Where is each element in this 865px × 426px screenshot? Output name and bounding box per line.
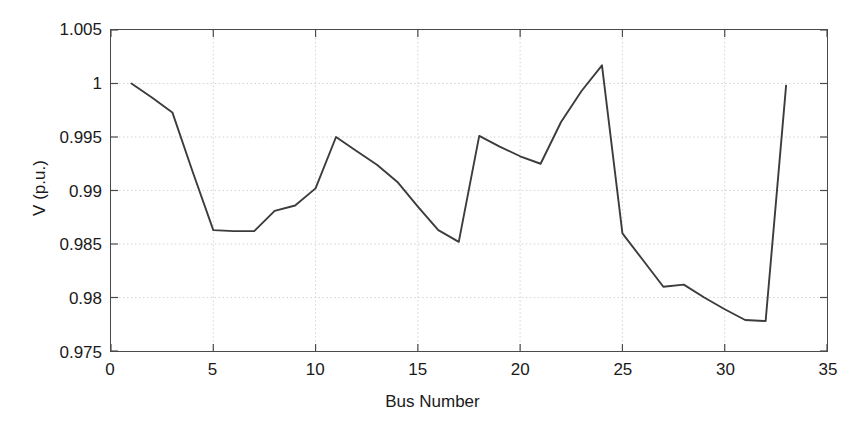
- figure-container: 0.9750.980.9850.990.99511.005 0510152025…: [0, 0, 865, 426]
- x-tick-label: 20: [490, 361, 550, 378]
- x-axis-label: Bus Number: [0, 392, 865, 412]
- plot-svg: [111, 30, 827, 351]
- x-tick-label: 10: [285, 361, 345, 378]
- x-tick-label: 5: [183, 361, 243, 378]
- x-tick-label: 25: [593, 361, 653, 378]
- x-tick-label: 35: [798, 361, 858, 378]
- y-axis-label: V (p.u.): [30, 128, 50, 248]
- data-series-line: [131, 65, 786, 321]
- x-tick-label: 0: [80, 361, 140, 378]
- x-tick-label: 30: [695, 361, 755, 378]
- y-axis-label-wrapper: V (p.u.): [0, 130, 100, 250]
- plot-area: [110, 29, 828, 352]
- x-tick-label: 15: [388, 361, 448, 378]
